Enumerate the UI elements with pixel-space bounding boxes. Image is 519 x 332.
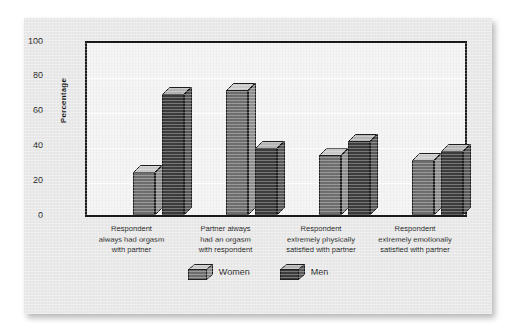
legend-item-women[interactable]: Women [188,264,250,280]
bar-men-respondent-orgasm[interactable] [162,94,184,215]
bar-front-face [255,148,277,215]
bar-women-emotionally-satisfied[interactable] [412,160,434,215]
bar-men-partner-orgasm[interactable] [255,148,277,215]
legend-label-men: Men [311,267,329,277]
legend-item-men[interactable]: Men [280,264,329,280]
legend-label-women: Women [219,267,250,277]
category-label-line: Respondent [79,224,184,235]
legend-swatch-women-icon [188,264,212,280]
bar-top-face [226,83,248,90]
category-label-1: Respondent always had orgasm with partne… [79,224,184,256]
bar-women-physically-satisfied[interactable] [319,155,341,215]
bar-top-face [255,141,277,148]
bar-front-face [348,141,370,215]
bar-women-partner-orgasm[interactable] [226,90,248,215]
category-label-line: extremely emotionally [358,235,472,246]
y-tick-label-20: 20 [9,176,43,185]
bar-side-face [370,141,377,215]
category-label-line: always had orgasm [79,235,184,246]
y-tick-label-100: 100 [9,37,43,46]
bar-front-face [412,160,434,215]
bar-top-face [319,148,341,155]
bar-front-face [133,172,155,215]
bar-top-face [133,165,155,172]
bar-side-face [155,172,162,215]
bar-side-face [248,90,255,215]
bar-side-face [277,148,284,215]
bar-front-face [441,151,463,215]
category-label-line: with partner [79,245,184,256]
category-label-line: satisfied with partner [358,245,472,256]
bar-top-face [441,144,463,151]
category-label-4: Respondent extremely emotionally satisfi… [358,224,472,256]
figure-card: Percentage 100 80 60 40 20 0 [24,18,492,314]
bar-top-face [412,153,434,160]
y-tick-label-80: 80 [9,71,43,80]
gridline-80 [87,78,465,79]
bar-front-face [319,155,341,215]
bar-side-face [184,94,191,215]
bar-men-emotionally-satisfied[interactable] [441,151,463,215]
bar-top-face [348,134,370,141]
bar-top-face [162,87,184,94]
category-label-line: Respondent [358,224,472,235]
bar-side-face [341,155,348,215]
bar-side-face [434,160,441,215]
bar-front-face [226,90,248,215]
plot-area [85,41,467,217]
y-tick-label-60: 60 [9,106,43,115]
bar-front-face [162,94,184,215]
bar-men-physically-satisfied[interactable] [348,141,370,215]
y-tick-label-0: 0 [9,211,43,220]
category-label-line: had an orgasm [173,235,278,246]
gridline-60 [87,113,465,114]
category-label-2: Partner always had an orgasm with respon… [173,224,278,256]
category-label-line: Partner always [173,224,278,235]
y-axis-title: Percentage [59,56,68,146]
legend-swatch-men-icon [280,264,304,280]
y-tick-label-40: 40 [9,141,43,150]
category-label-line: with respondent [173,245,278,256]
chart-legend: Women Men [24,264,492,280]
bar-side-face [463,151,470,215]
bar-women-respondent-orgasm[interactable] [133,172,155,215]
